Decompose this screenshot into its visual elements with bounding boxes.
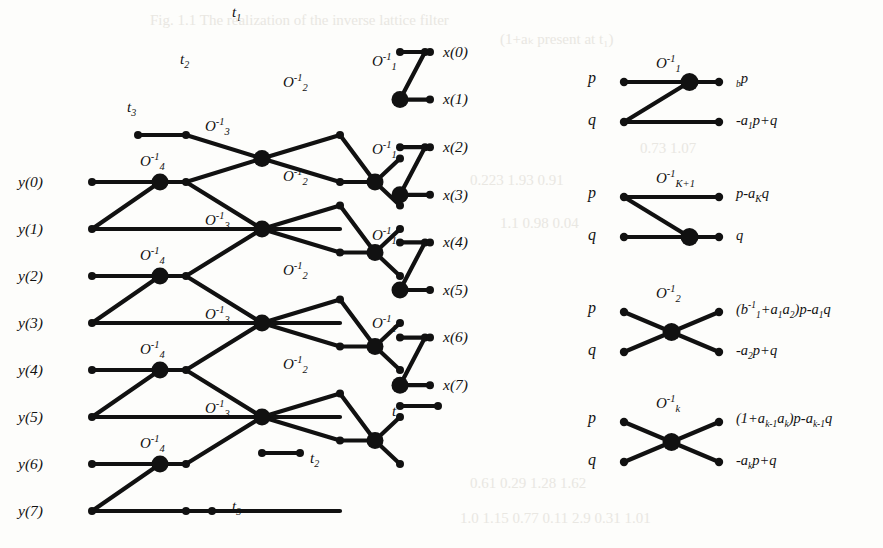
stage3-operator-label-2-subscript: 3 (225, 314, 230, 325)
stage4-operator-label-3-superscript: -1 (151, 433, 160, 444)
terminal-top-t2-sub: 2 (184, 59, 189, 70)
legend-O2-input-dot-top (620, 308, 628, 316)
legend-Ok-output-expression-top-part-0: (1+a (736, 410, 765, 426)
legend-O2-input-dot-bottom (620, 348, 628, 356)
legend-Ok-output-expression-top-part-4: )p-a (789, 410, 813, 426)
legend-O2-output-expression-top-part-9: q (823, 301, 830, 317)
stage3-operator-label-3-subscript: 3 (225, 408, 230, 419)
legend-OK1-output-expression-bottom: q (736, 228, 743, 243)
stage4-butterfly-node-2 (152, 362, 169, 379)
legend-Ok-input-label-p: p (588, 410, 596, 426)
stage3-operator-label-2: O-13 (205, 305, 230, 326)
stage4-operator-label-3-subscript: 4 (160, 443, 165, 454)
legend-Ok-output-expression-top-part-5: k-1 (813, 419, 825, 429)
stage4-operator-label-1-subscript: 4 (160, 255, 165, 266)
legend-O2-output-expression-bottom: -a2p+q (736, 343, 777, 361)
legend-O1-output-expression-bottom-part-0: -a (736, 112, 748, 128)
stage3-butterfly-node-2 (254, 315, 271, 332)
stage2-operator-label-2-base: O (283, 262, 294, 278)
stage4-operator-label-0-subscript: 4 (160, 161, 165, 172)
stage1-operator-label-1: O-11 (372, 140, 397, 161)
legend-OK1-output-dot-bottom (715, 233, 723, 241)
legend-O1-butterfly-node (681, 73, 699, 91)
stage1-operator-label-2-superscript: -1 (383, 225, 392, 236)
legend-O2-output-dot-bottom (715, 348, 723, 356)
stage2-operator-label-0-base: O (283, 74, 294, 90)
legend-OK1-operator-label: O-1K+1 (656, 169, 695, 190)
stage4-butterfly-node-1 (152, 268, 169, 285)
input-label-y4: y(4) (18, 362, 43, 378)
stage1-in-top-3 (396, 334, 404, 342)
legend-O1-output-dot-bottom (715, 118, 723, 126)
terminal-bottom-t2-sub: 2 (314, 458, 319, 469)
stage3-operator-label-1: O-13 (205, 211, 230, 232)
output-dot-x3 (426, 191, 434, 199)
terminal-top-t1-sub: 1 (236, 12, 241, 23)
legend-O2-butterfly-node (663, 323, 681, 341)
stage4-operator-label-1: O-14 (140, 246, 165, 267)
legend-O2-output-expression-top-part-7: )p-a (795, 301, 819, 317)
legend-O2-output-expression-top: (b-11+a1a2)p-a1q (736, 301, 831, 320)
legend-OK1-input-label-q: q (588, 227, 596, 243)
legend-Ok-operator-base: O (656, 395, 667, 411)
output-label-x2: x(2) (443, 139, 468, 155)
figure-root: y(0) y(1) y(2) y(3) y(4) y(5) y(6) y(7) … (0, 0, 883, 548)
terminal-bottom-t1-sub: 1 (396, 411, 401, 422)
stage4-operator-label-3: O-14 (140, 434, 165, 455)
stage4-operator-label-2: O-14 (140, 340, 165, 361)
legend-O2-operator-superscript: -1 (667, 283, 676, 294)
output-dot-x5 (426, 286, 434, 294)
stage4-operator-label-2-superscript: -1 (151, 339, 160, 350)
input-label-y2: y(2) (18, 268, 43, 284)
legend-OK1-output-expression-bottom-part-0: q (736, 227, 743, 243)
legend-O1-input-label-p: p (588, 70, 596, 86)
stage4-operator-label-0-superscript: -1 (151, 151, 160, 162)
terminal-bottom-t1: t1 (392, 404, 401, 422)
legend-O2-output-expression-top-part-0: (b (736, 301, 748, 317)
terminal-bottom-t3-tap (182, 507, 190, 515)
terminal-bottom-t3-dot (208, 507, 216, 515)
legend-O1-operator-superscript: -1 (667, 53, 676, 64)
legend-OK1-output-expression-top: p-aKq (736, 186, 769, 204)
stage4-top-feed-dot (182, 131, 190, 139)
stage1-operator-label-3-base: O (372, 315, 383, 331)
stage2-butterfly-node-3 (367, 432, 384, 449)
legend-O2-output-expression-bottom-part-2: p+q (753, 342, 777, 358)
stage4-operator-label-2-base: O (140, 341, 151, 357)
legend-Ok-output-expression-top-part-2: a (777, 410, 784, 426)
stage4-operator-label-0-base: O (140, 153, 151, 169)
output-dot-x4 (426, 238, 434, 246)
legend-O2-operator-label: O-12 (656, 284, 681, 305)
stage4-operator-label-1-base: O (140, 247, 151, 263)
stage1-butterfly-node-0 (392, 91, 409, 108)
output-label-x0: x(0) (443, 44, 468, 60)
legend-OK1-output-expression-top-part-0: p-a (736, 185, 755, 201)
stage1-operator-label-2: O-11 (372, 226, 397, 247)
stage1-in-top-0 (396, 48, 404, 56)
stage1-operator-label-1-superscript: -1 (383, 139, 392, 150)
stage3-operator-label-0-base: O (205, 118, 216, 134)
stage4-operator-label-1-superscript: -1 (151, 245, 160, 256)
legend-O2-output-dot-top (715, 308, 723, 316)
stage3-operator-label-0-superscript: -1 (216, 116, 225, 127)
stage1-in-top-2 (396, 238, 404, 246)
stage2-tap-down-3 (396, 460, 404, 468)
legend-Ok-output-expression-top-part-1: k-1 (765, 419, 777, 429)
stage4-tap-2 (182, 366, 190, 374)
input-dot-y4 (88, 366, 96, 374)
output-label-x6: x(6) (443, 329, 468, 345)
stage4-operator-label-0: O-14 (140, 152, 165, 173)
output-label-x1: x(1) (443, 91, 468, 107)
legend-O1-graph (614, 60, 754, 150)
stage3-operator-label-0-subscript: 3 (225, 126, 230, 137)
legend-O1-input-dot-top (620, 78, 628, 86)
terminal-bottom-t2-dot (296, 449, 304, 457)
input-dot-y2 (88, 272, 96, 280)
input-label-y3: y(3) (18, 315, 43, 331)
output-dot-x0 (426, 48, 434, 56)
stage2-operator-label-1-subscript: 2 (303, 176, 308, 187)
legend-O2-output-expression-bottom-part-0: -a (736, 342, 748, 358)
legend-Ok-butterfly-node (663, 433, 681, 451)
input-label-y1: y(1) (18, 221, 43, 237)
stage1-operator-label-0-base: O (372, 53, 383, 69)
